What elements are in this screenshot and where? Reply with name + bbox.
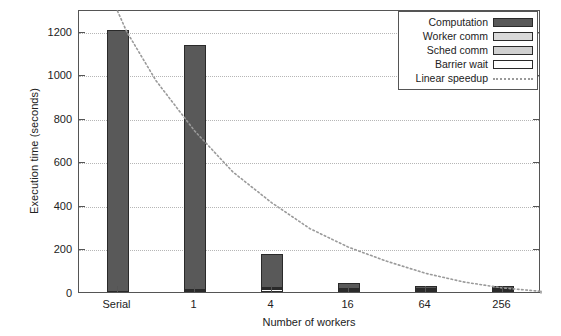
legend-label-barrier-wait: Barrier wait	[435, 57, 488, 71]
legend-label-computation: Computation	[428, 15, 488, 29]
legend-item-barrier-wait: Barrier wait	[403, 57, 533, 71]
bar-segment-barrier-wait[interactable]	[415, 290, 437, 292]
worker-comm-swatch	[493, 32, 533, 41]
chart-container: Execution time (seconds) 020040060080010…	[0, 0, 561, 336]
x-tick-label: 1	[190, 298, 196, 310]
legend-item-linear-speedup: Linear speedup	[403, 71, 533, 85]
sched-comm-swatch	[493, 46, 533, 55]
y-tick-mark	[78, 119, 85, 120]
x-tick-mark	[425, 286, 426, 293]
y-tick-mark	[78, 32, 85, 33]
bar-segment-barrier-wait[interactable]	[261, 289, 283, 292]
x-tick-label: 64	[418, 298, 430, 310]
y-tick-mark-right	[533, 206, 540, 207]
y-tick-mark	[78, 249, 85, 250]
bar-segment-barrier-wait[interactable]	[492, 290, 514, 292]
chart-legend: Computation Worker comm Sched comm Barri…	[398, 11, 538, 90]
bar-segment-barrier-wait[interactable]	[338, 290, 360, 292]
legend-label-worker-comm: Worker comm	[423, 29, 488, 43]
bar-segment-computation[interactable]	[107, 30, 129, 292]
gridline	[79, 163, 539, 164]
bar-group[interactable]	[261, 254, 283, 292]
x-tick-mark	[348, 286, 349, 293]
bar-segment-computation[interactable]	[261, 254, 283, 286]
y-tick-label: 800	[26, 113, 72, 125]
bar-segment-computation[interactable]	[184, 45, 206, 289]
bar-group[interactable]	[338, 283, 360, 292]
bar-segment-sched-comm[interactable]	[184, 290, 206, 292]
gridline	[79, 250, 539, 251]
y-tick-mark	[78, 75, 85, 76]
y-tick-mark	[78, 206, 85, 207]
y-tick-mark-right	[533, 162, 540, 163]
y-tick-label: 1200	[26, 26, 72, 38]
x-tick-mark	[502, 286, 503, 293]
bar-group[interactable]	[107, 30, 129, 292]
gridline	[79, 207, 539, 208]
y-tick-label: 0	[26, 287, 72, 299]
computation-swatch	[493, 18, 533, 27]
legend-label-sched-comm: Sched comm	[427, 43, 488, 57]
legend-item-sched-comm: Sched comm	[403, 43, 533, 57]
y-tick-label: 200	[26, 243, 72, 255]
x-tick-mark	[194, 286, 195, 293]
y-tick-mark-right	[533, 119, 540, 120]
x-tick-label: 16	[341, 298, 353, 310]
x-tick-mark	[271, 286, 272, 293]
bar-group[interactable]	[415, 286, 437, 292]
bar-group[interactable]	[492, 286, 514, 292]
x-axis-title: Number of workers	[78, 316, 540, 328]
x-tick-label: Serial	[102, 298, 130, 310]
x-tick-label: 256	[492, 298, 510, 310]
y-tick-label: 1000	[26, 69, 72, 81]
x-tick-label: 4	[267, 298, 273, 310]
bar-group[interactable]	[184, 45, 206, 292]
gridline	[79, 120, 539, 121]
legend-label-linear-speedup: Linear speedup	[416, 71, 488, 85]
y-tick-label: 400	[26, 200, 72, 212]
legend-item-worker-comm: Worker comm	[403, 29, 533, 43]
y-tick-label: 600	[26, 156, 72, 168]
legend-item-computation: Computation	[403, 15, 533, 29]
barrier-wait-swatch	[493, 60, 533, 69]
x-tick-mark	[117, 286, 118, 293]
y-tick-mark	[78, 162, 85, 163]
y-axis-title: Execution time (seconds)	[28, 31, 40, 271]
y-tick-mark-right	[533, 249, 540, 250]
linear-speedup-line	[493, 74, 533, 83]
